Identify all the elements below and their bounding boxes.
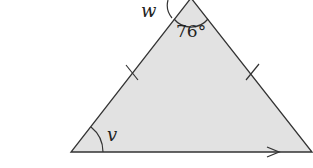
apex-angle-label: 76°: [176, 21, 206, 41]
exterior-angle-label: w: [141, 0, 157, 21]
exterior-angle-arc: [167, 0, 172, 18]
base-angle-label: v: [107, 124, 117, 145]
triangle-diagram: 76° w v: [0, 0, 313, 168]
